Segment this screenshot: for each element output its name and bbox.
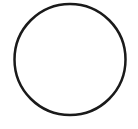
circle-outline [15,4,126,115]
diagram-canvas [0,0,138,129]
